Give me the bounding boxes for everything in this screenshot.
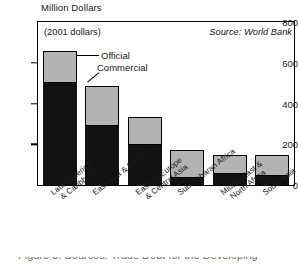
figure-caption: Figure 3. Sources: Trade Debt for the De… bbox=[18, 257, 280, 264]
chart-container: Million Dollars (2001 dollars) Source: W… bbox=[0, 0, 298, 264]
leader-line-official bbox=[77, 55, 99, 56]
legend-label-official: Official bbox=[101, 50, 130, 61]
bar-segment-official[interactable] bbox=[43, 51, 77, 84]
bar-latin-america-caribbean[interactable] bbox=[43, 51, 77, 185]
y-axis-title: Million Dollars bbox=[41, 2, 102, 13]
legend-label-commercial: Commercial bbox=[97, 62, 148, 73]
bar-segment-commercial[interactable] bbox=[43, 83, 77, 185]
figure-caption-text: Figure 3. Sources: Trade Debt for the De… bbox=[18, 257, 280, 261]
y-tick-mark-600 bbox=[31, 62, 37, 63]
y-tick-mark-400 bbox=[31, 103, 37, 104]
bar-segment-official[interactable] bbox=[85, 86, 119, 126]
y-tick-mark-200 bbox=[31, 144, 37, 145]
bar-segment-official[interactable] bbox=[128, 117, 162, 145]
